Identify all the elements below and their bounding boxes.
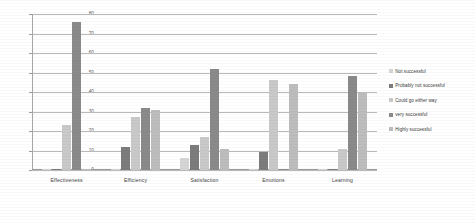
chart-legend: Not successfulProbably not successfulCou… xyxy=(389,64,473,137)
bar-chart: 80706050403020100 EffectivenessEfficienc… xyxy=(0,0,475,223)
legend-swatch-icon xyxy=(389,69,393,73)
bar xyxy=(249,169,258,170)
bar xyxy=(121,147,130,170)
x-axis-category-label: Effectiveness xyxy=(32,174,101,190)
legend-item[interactable]: Could go either way xyxy=(389,93,473,108)
bar xyxy=(62,125,71,170)
plot-area xyxy=(32,14,377,170)
legend-item[interactable]: Not successful xyxy=(389,64,473,79)
bar xyxy=(82,169,91,170)
legend-item-label: Highly successful xyxy=(395,127,431,132)
bar-group xyxy=(170,14,239,170)
bar xyxy=(180,158,189,170)
bar xyxy=(338,149,347,170)
bar xyxy=(289,84,298,170)
gridline xyxy=(32,170,377,171)
bar xyxy=(259,152,268,170)
x-axis-category-label: Emotions xyxy=(239,174,308,190)
legend-item-label: Could go either way xyxy=(395,98,437,103)
bar-group xyxy=(308,14,377,170)
bar xyxy=(72,22,81,170)
bar xyxy=(131,117,140,170)
bar-group xyxy=(239,14,308,170)
bar xyxy=(151,110,160,170)
x-axis-category-label: Efficiency xyxy=(101,174,170,190)
bar xyxy=(190,145,199,170)
bar xyxy=(141,108,150,170)
legend-swatch-icon xyxy=(389,113,393,117)
bar xyxy=(318,169,327,170)
legend-item-label: very successful xyxy=(395,112,427,117)
legend-item[interactable]: Probably not successful xyxy=(389,79,473,94)
bar xyxy=(220,149,229,170)
legend-item[interactable]: Highly successful xyxy=(389,122,473,137)
bar xyxy=(358,92,367,170)
legend-swatch-icon xyxy=(389,98,393,102)
bar xyxy=(111,169,120,170)
bar xyxy=(200,137,209,170)
bar-group xyxy=(32,14,101,170)
legend-item[interactable]: very successful xyxy=(389,108,473,123)
bar xyxy=(348,76,357,170)
legend-item-label: Not successful xyxy=(395,69,426,74)
legend-swatch-icon xyxy=(389,84,393,88)
bar-groups xyxy=(32,14,377,170)
x-axis-category-label: Satisfaction xyxy=(170,174,239,190)
bar xyxy=(328,169,337,170)
bar xyxy=(52,169,61,170)
bar xyxy=(269,80,278,170)
bar xyxy=(210,69,219,170)
bar-group xyxy=(101,14,170,170)
x-axis-labels: EffectivenessEfficiencySatisfactionEmoti… xyxy=(32,174,377,190)
legend-item-label: Probably not successful xyxy=(395,83,445,88)
x-axis-category-label: Learning xyxy=(308,174,377,190)
bar xyxy=(279,169,288,170)
bar xyxy=(42,169,51,170)
legend-swatch-icon xyxy=(389,127,393,131)
